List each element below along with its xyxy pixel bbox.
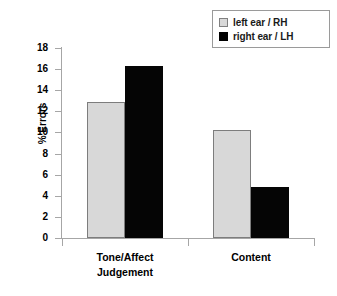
bar-left-ear-rh-group-1 — [87, 102, 125, 238]
y-axis-tick — [55, 111, 62, 112]
x-axis-tick — [314, 239, 315, 246]
y-axis-tick — [55, 48, 62, 49]
y-axis-tick-label: 14 — [8, 85, 48, 95]
x-axis-category-label: Tone/Affect Judgement — [62, 250, 188, 280]
y-axis-tick — [55, 154, 62, 155]
bar-left-ear-rh-group-2 — [213, 130, 251, 238]
chart-legend: left ear / RH right ear / LH — [212, 10, 330, 48]
y-axis-tick-label: 10 — [8, 127, 48, 137]
y-axis-tick-label: 6 — [8, 170, 48, 180]
legend-label-right-ear-lh: right ear / LH — [233, 31, 293, 42]
y-axis-tick-label: 12 — [8, 106, 48, 116]
x-axis-category-label: Content — [188, 250, 314, 265]
y-axis-tick — [55, 69, 62, 70]
bar-chart: left ear / RH right ear / LH % Errors 02… — [0, 0, 337, 296]
legend-item-right-ear-lh: right ear / LH — [219, 29, 324, 43]
legend-label-left-ear-rh: left ear / RH — [233, 17, 287, 28]
legend-item-left-ear-rh: left ear / RH — [219, 15, 324, 29]
bar-right-ear-lh-group-2 — [251, 187, 289, 238]
y-axis-tick — [55, 196, 62, 197]
x-axis-tick — [188, 239, 189, 246]
y-axis-tick-label: 4 — [8, 191, 48, 201]
y-axis-tick-label: 0 — [8, 233, 48, 243]
x-axis-tick — [62, 239, 63, 246]
y-axis-tick-label: 18 — [8, 43, 48, 53]
y-axis-tick — [55, 90, 62, 91]
y-axis-tick-label: 2 — [8, 212, 48, 222]
plot-area — [62, 48, 314, 238]
legend-swatch-light-icon — [219, 18, 228, 27]
y-axis-tick — [55, 217, 62, 218]
y-axis-tick-label: 16 — [8, 64, 48, 74]
y-axis-tick-label: 8 — [8, 149, 48, 159]
bar-right-ear-lh-group-1 — [125, 66, 163, 238]
y-axis-tick — [55, 132, 62, 133]
legend-swatch-dark-icon — [219, 32, 228, 41]
y-axis-tick — [55, 175, 62, 176]
y-axis-tick — [55, 238, 62, 239]
